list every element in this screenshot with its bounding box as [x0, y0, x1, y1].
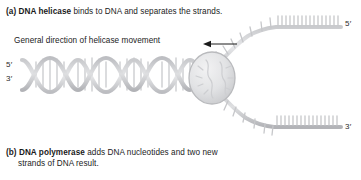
separated-strand-bottom	[213, 86, 341, 135]
dna-replication-figure: (a) DNA helicase binds to DNA and separa…	[0, 0, 361, 180]
panel-b-caption-lead: (b) DNA polymerase	[6, 148, 85, 157]
separated-strand-top	[214, 16, 341, 68]
dna-double-helix-icon	[22, 58, 205, 92]
panel-b-caption-rest: adds DNA nucleotides and two new	[85, 148, 218, 157]
panel-b-caption-line2: strands of DNA result.	[6, 159, 218, 170]
helicase-enzyme-icon	[189, 52, 235, 104]
panel-b-caption: (b) DNA polymerase adds DNA nucleotides …	[6, 148, 218, 169]
